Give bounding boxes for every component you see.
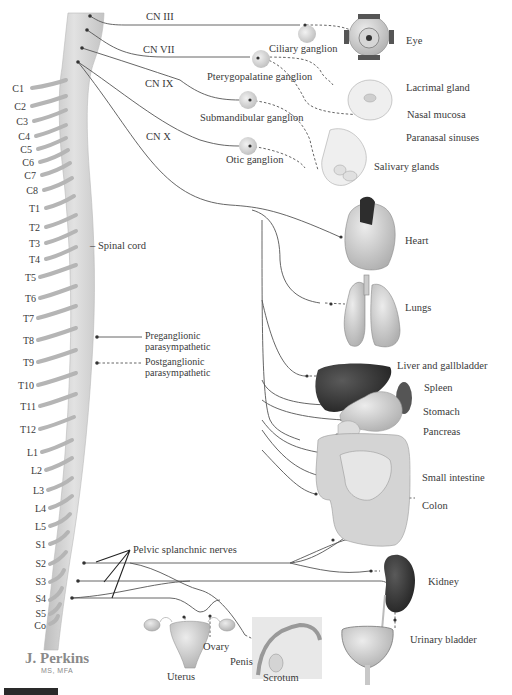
kidney-illustration [382, 555, 415, 630]
eye-illustration [344, 14, 394, 60]
pterygopalatine-ganglion-body [252, 50, 270, 68]
level-t10: T10 [12, 380, 34, 391]
level-s2: S2 [24, 558, 46, 569]
lungs-illustration [344, 275, 400, 347]
level-s1: S1 [24, 539, 46, 550]
legend-preganglionic-line2: parasympathetic [145, 341, 211, 352]
parasympathetic-diagram: CN III CN VII CN IX CN X Ciliary ganglio… [0, 0, 512, 695]
level-t11: T11 [14, 401, 36, 412]
legend-postganglionic-line1: Postganglionic [145, 356, 204, 367]
level-l5: L5 [24, 521, 46, 532]
level-t1: T1 [18, 203, 40, 214]
artist-signature: J. Perkins MS, MFA [25, 650, 89, 674]
level-c3: C3 [6, 116, 28, 127]
label-cn-x: CN X [146, 131, 171, 143]
level-c7: C7 [14, 170, 36, 181]
figure-number-tag [4, 688, 58, 695]
label-cn-vii: CN VII [143, 44, 175, 56]
label-penis: Penis [230, 656, 253, 668]
level-co: Co [24, 620, 46, 631]
label-pelvic-splanchnic-nerves: Pelvic splanchnic nerves [133, 544, 237, 556]
level-t12: T12 [14, 424, 36, 435]
signature-degrees: MS, MFA [25, 667, 89, 674]
level-c8: C8 [16, 185, 38, 196]
cranial-nerve-paths [78, 16, 345, 494]
signature-name: J. Perkins [25, 650, 89, 667]
label-nasal-mucosa: Nasal mucosa [407, 109, 466, 121]
level-t5: T5 [14, 272, 36, 283]
label-liver-gallbladder: Liver and gallbladder [397, 360, 487, 372]
level-t8: T8 [12, 335, 34, 346]
label-submandibular-ganglion: Submandibular ganglion [200, 112, 304, 124]
level-t4: T4 [18, 254, 40, 265]
level-s5: S5 [24, 608, 46, 619]
label-pancreas: Pancreas [423, 426, 460, 438]
label-heart: Heart [405, 235, 428, 247]
label-cn-iii: CN III [146, 11, 174, 23]
level-l4: L4 [24, 503, 46, 514]
level-s3: S3 [24, 576, 46, 587]
label-lacrimal-gland: Lacrimal gland [406, 82, 470, 94]
label-spinal-cord-leader: – [90, 240, 95, 252]
heart-illustration [345, 197, 395, 270]
level-t6: T6 [14, 293, 36, 304]
label-ciliary-ganglion: Ciliary ganglion [269, 43, 338, 55]
submandibular-ganglion-body [239, 91, 257, 109]
level-c1: C1 [2, 83, 24, 94]
level-l3: L3 [22, 485, 44, 496]
label-pterygopalatine-ganglion: Pterygopalatine ganglion [207, 71, 312, 83]
diagram-artwork [0, 0, 512, 695]
label-kidney: Kidney [428, 576, 459, 588]
otic-ganglion-body [239, 137, 257, 155]
intestines-illustration [316, 434, 410, 547]
label-ovary: Ovary [203, 641, 229, 653]
label-small-intestine: Small intestine [422, 472, 485, 484]
legend-postganglionic-line2: parasympathetic [145, 367, 211, 378]
label-salivary-glands: Salivary glands [374, 161, 439, 173]
label-spinal-cord: Spinal cord [98, 240, 146, 252]
spinal-cord [44, 13, 104, 650]
label-cn-ix: CN IX [145, 78, 173, 90]
level-c2: C2 [4, 101, 26, 112]
legend-lines [98, 337, 142, 363]
level-c5: C5 [10, 144, 32, 155]
level-l1: L1 [16, 447, 38, 458]
level-c4: C4 [8, 131, 30, 142]
figure-caption [4, 688, 58, 695]
level-s4: S4 [24, 593, 46, 604]
level-c6: C6 [12, 157, 34, 168]
label-uterus: Uterus [167, 671, 195, 683]
label-colon: Colon [422, 500, 448, 512]
label-spleen: Spleen [424, 382, 453, 394]
level-t2: T2 [18, 222, 40, 233]
label-paranasal-sinuses: Paranasal sinuses [406, 132, 479, 144]
label-eye: Eye [406, 35, 422, 47]
urinary-bladder-illustration [342, 626, 393, 685]
level-t9: T9 [12, 357, 34, 368]
ciliary-ganglion-body [298, 25, 316, 43]
male-genitalia-illustration [252, 617, 322, 679]
label-scrotum: Scrotum [263, 672, 299, 684]
legend-preganglionic-line1: Preganglionic [145, 330, 201, 341]
level-t3: T3 [18, 238, 40, 249]
level-l2: L2 [20, 465, 42, 476]
label-otic-ganglion: Otic ganglion [226, 154, 283, 166]
label-lungs: Lungs [405, 302, 431, 314]
label-urinary-bladder: Urinary bladder [410, 634, 477, 646]
label-stomach: Stomach [423, 406, 460, 418]
level-t7: T7 [12, 313, 34, 324]
